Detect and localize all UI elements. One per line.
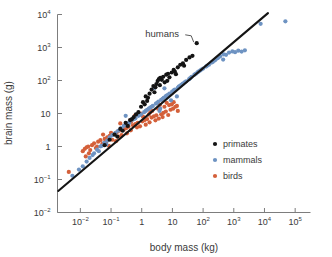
data-point (86, 144, 90, 148)
data-point (165, 79, 169, 83)
y-tick-label-2: 102 (37, 75, 51, 86)
data-point (161, 115, 165, 119)
data-point (182, 64, 186, 68)
data-point (166, 113, 170, 117)
data-point (84, 154, 88, 158)
data-point (124, 114, 128, 118)
x-axis-tick-labels: 10−210−1110102103104105 (72, 216, 303, 227)
data-point (97, 149, 101, 153)
humans-annotation: humans (145, 28, 194, 42)
x-tick-label-3: 10 (167, 217, 177, 227)
legend-item-birds[interactable]: birds (213, 171, 243, 181)
data-point (175, 104, 179, 108)
data-point (190, 54, 194, 58)
svg-text:10: 10 (167, 217, 177, 227)
data-point (139, 105, 143, 109)
x-tick-label-6: 104 (258, 216, 272, 227)
data-point (134, 112, 138, 116)
svg-text:103: 103 (37, 42, 51, 53)
x-tick-label-2: 1 (139, 217, 144, 227)
data-point (173, 70, 177, 74)
data-point (169, 98, 173, 102)
data-point (153, 85, 157, 89)
data-point (92, 141, 96, 145)
data-point (144, 123, 148, 127)
annotation-label-humans: humans (145, 28, 179, 39)
data-point (221, 58, 225, 62)
data-point (162, 86, 166, 90)
data-point (85, 159, 89, 163)
data-point (147, 92, 151, 96)
data-point (164, 109, 168, 113)
data-point (103, 143, 107, 147)
x-tick-label-5: 103 (227, 216, 241, 227)
svg-text:105: 105 (288, 216, 302, 227)
data-point (146, 96, 150, 100)
svg-text:10−1: 10−1 (103, 216, 121, 227)
x-tick-label-4: 102 (196, 216, 210, 227)
data-point (130, 117, 134, 121)
y-tick-label-4: 1 (45, 142, 50, 152)
data-point (195, 41, 199, 45)
data-point (175, 94, 179, 98)
legend-marker-icon (213, 142, 217, 146)
data-point (167, 75, 171, 79)
data-point (283, 19, 287, 23)
chart-legend: primatesmammalsbirds (213, 139, 263, 181)
data-point (87, 151, 91, 155)
svg-text:102: 102 (37, 75, 51, 86)
plot-frame (58, 15, 311, 213)
y-tick-label-1: 103 (37, 42, 51, 53)
svg-text:10−1: 10−1 (34, 174, 52, 185)
data-point (143, 102, 147, 106)
svg-text:10−2: 10−2 (72, 216, 90, 227)
legend-marker-icon (213, 174, 217, 178)
svg-text:10−2: 10−2 (34, 207, 52, 218)
y-tick-label-3: 10 (40, 109, 50, 119)
x-tick-label-7: 105 (288, 216, 302, 227)
x-axis-ticks (80, 208, 295, 213)
chart-svg: 10−210−1110102103104105 10410310210110−1… (0, 0, 332, 257)
legend-item-mammals[interactable]: mammals (213, 155, 263, 165)
data-point (158, 83, 162, 87)
data-point (147, 120, 151, 124)
legend-marker-icon (213, 158, 217, 162)
x-tick-label-0: 10−2 (72, 216, 90, 227)
svg-text:10: 10 (40, 109, 50, 119)
y-axis-ticks (58, 15, 63, 213)
data-point (67, 170, 71, 174)
legend-item-primates[interactable]: primates (213, 139, 258, 149)
data-point (147, 107, 151, 111)
legend-label: mammals (223, 155, 263, 165)
data-point (115, 134, 119, 138)
data-point (121, 129, 125, 133)
svg-text:104: 104 (37, 9, 51, 20)
y-tick-label-5: 10−1 (34, 174, 52, 185)
y-tick-label-6: 10−2 (34, 207, 52, 218)
data-point (158, 107, 162, 111)
data-point (118, 121, 122, 125)
svg-text:1: 1 (139, 217, 144, 227)
data-point (101, 132, 105, 136)
data-point (98, 138, 102, 142)
data-point (243, 48, 247, 52)
brain-vs-body-mass-chart: 10−210−1110102103104105 10410310210110−1… (0, 0, 332, 257)
x-axis-title: body mass (kg) (150, 242, 218, 253)
data-point (153, 118, 157, 122)
data-point (90, 153, 94, 157)
svg-text:102: 102 (196, 216, 210, 227)
legend-label: primates (223, 139, 258, 149)
y-axis-tick-labels: 10410310210110−110−2 (34, 9, 52, 218)
data-point (152, 90, 156, 94)
annotation-leader-line (185, 35, 194, 42)
data-point (176, 109, 180, 113)
svg-text:104: 104 (258, 216, 272, 227)
svg-text:1: 1 (45, 142, 50, 152)
y-tick-label-0: 104 (37, 9, 51, 20)
data-point (259, 22, 263, 26)
data-point (184, 58, 188, 62)
data-point (108, 138, 112, 142)
data-point (126, 124, 130, 128)
svg-text:103: 103 (227, 216, 241, 227)
y-axis-title: brain mass (g) (3, 81, 14, 145)
